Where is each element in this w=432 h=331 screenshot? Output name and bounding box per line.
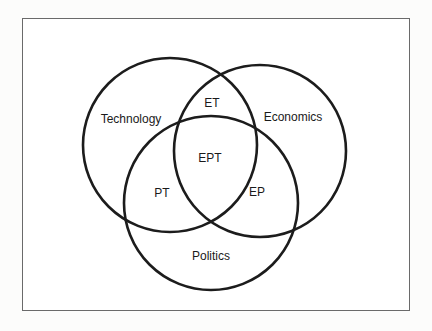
economics-label: Economics [264,110,323,124]
technology-label: Technology [101,112,162,126]
ept-intersection-label: EPT [198,151,222,165]
technology-circle [83,58,257,232]
politics-circle [124,116,298,290]
et-intersection-label: ET [204,96,220,110]
ep-intersection-label: EP [249,185,265,199]
venn-diagram: Technology Economics Politics ET EPT PT … [0,0,432,331]
pt-intersection-label: PT [154,186,170,200]
politics-label: Politics [192,249,230,263]
